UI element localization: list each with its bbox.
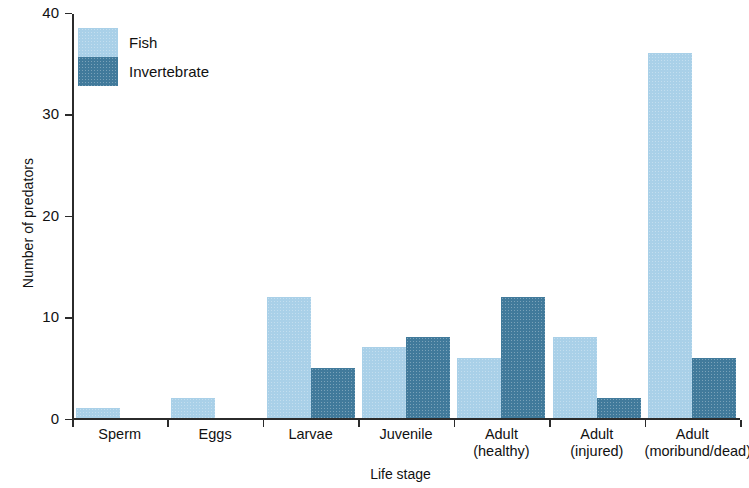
bar-invert-2	[311, 368, 355, 419]
legend-swatch-invertebrate	[78, 57, 118, 86]
x-category-label-line1: Eggs	[199, 426, 232, 442]
x-category-label-line1: Adult	[676, 426, 709, 442]
legend-swatch-fish	[78, 28, 118, 57]
x-tick	[740, 420, 742, 427]
legend: Fish Invertebrate	[78, 28, 209, 86]
y-tick-label: 40	[42, 3, 59, 23]
x-axis-line	[72, 418, 740, 420]
y-tick: 10	[65, 317, 72, 319]
x-category-label-line1: Adult	[485, 426, 518, 442]
x-category-label-5: Adult(injured)	[549, 426, 644, 460]
bar-invert-4	[501, 297, 545, 419]
x-category-label-line1: Adult	[580, 426, 613, 442]
bar-fish-3	[362, 347, 406, 418]
bar-fish-2	[267, 297, 311, 419]
x-category-label-line1: Sperm	[98, 426, 141, 442]
bar-chart-figure: Number of predators 010203040 SpermEggsL…	[0, 0, 749, 488]
y-tick: 0	[65, 419, 72, 421]
x-category-label-line1: Larvae	[288, 426, 332, 442]
bar-fish-6	[648, 53, 692, 418]
bar-invert-5	[597, 398, 641, 418]
x-category-label-line2: (moribund/dead)	[645, 443, 740, 460]
y-tick-label: 10	[42, 307, 59, 327]
y-tick: 20	[65, 216, 72, 218]
y-tick-label: 20	[42, 206, 59, 226]
bar-invert-3	[406, 337, 450, 418]
y-axis-line	[72, 14, 74, 420]
bar-fish-0	[76, 408, 120, 418]
y-tick: 40	[65, 13, 72, 15]
x-category-label-4: Adult(healthy)	[454, 426, 549, 460]
x-axis-title: Life stage	[0, 466, 749, 482]
x-category-label-1: Eggs	[167, 426, 262, 443]
legend-item-invertebrate: Invertebrate	[78, 57, 209, 86]
y-tick: 30	[65, 114, 72, 116]
y-tick-label: 0	[51, 409, 59, 429]
legend-label-fish: Fish	[129, 34, 157, 51]
bar-fish-1	[171, 398, 215, 418]
bar-fish-5	[553, 337, 597, 418]
bar-invert-6	[692, 358, 736, 419]
x-category-label-3: Juvenile	[358, 426, 453, 443]
y-tick-label: 30	[42, 104, 59, 124]
x-axis-title-text: Life stage	[370, 466, 431, 482]
x-category-label-line2: (healthy)	[454, 443, 549, 460]
bar-fish-4	[457, 358, 501, 419]
legend-label-invertebrate: Invertebrate	[129, 63, 209, 80]
x-category-label-line2: (injured)	[549, 443, 644, 460]
y-axis-title: Number of predators	[20, 133, 36, 313]
x-category-label-6: Adult(moribund/dead)	[645, 426, 740, 460]
legend-item-fish: Fish	[78, 28, 209, 57]
x-category-label-line1: Juvenile	[379, 426, 432, 442]
x-category-label-0: Sperm	[72, 426, 167, 443]
x-category-label-2: Larvae	[263, 426, 358, 443]
